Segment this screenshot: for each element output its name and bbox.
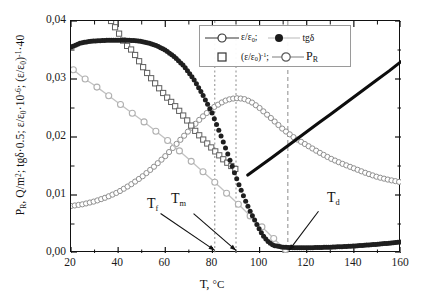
y-tick-label: 0,04	[30, 13, 66, 25]
legend-entry-eps-inverse: (ε/ε0)-1;	[204, 50, 269, 64]
x-tick-label: 100	[244, 256, 274, 268]
legend-label-tg-delta: tgδ	[301, 33, 314, 43]
x-tick-label: 140	[338, 256, 368, 268]
x-tick-label: 120	[291, 256, 321, 268]
x-tick-label: 20	[55, 256, 85, 268]
y-tick-label: 0,03	[30, 71, 66, 83]
legend-symbol-open-square	[204, 50, 240, 64]
legend-entry-pr: PR	[271, 49, 318, 64]
x-axis-title: T, °C	[0, 277, 424, 292]
legend-symbol-open-circle-gray-line	[271, 50, 305, 64]
legend-symbol-filled-circle	[267, 31, 301, 45]
annotation-t-f: Tf	[147, 196, 158, 213]
annotation-t-m: Tm	[171, 191, 186, 208]
legend-entry-tg-delta: tgδ	[267, 31, 314, 45]
x-tick-label: 40	[102, 256, 132, 268]
x-tick-label: 80	[196, 256, 226, 268]
y-axis-title-text: PR, Q/m2; tgδ·0.5; ε/ε0·10-6; (ε/ε0)-1·4…	[14, 35, 26, 216]
y-tick-label: 0,02	[30, 129, 66, 141]
legend-symbol-open-circle-line	[204, 31, 240, 45]
legend: ε/ε0; tgδ (ε/ε0)-1;	[199, 25, 351, 67]
legend-label-eps-over-eps0: ε/ε0;	[240, 32, 257, 43]
legend-row-1: ε/ε0; tgδ	[204, 28, 346, 47]
legend-label-eps-inverse: (ε/ε0)-1;	[240, 51, 269, 62]
x-tick-label: 60	[149, 256, 179, 268]
chart-root: PR, Q/m2; tgδ·0.5; ε/ε0·10-6; (ε/ε0)-1·4…	[0, 0, 424, 304]
legend-label-pr: PR	[305, 49, 318, 64]
annotation-t-d: Td	[327, 190, 340, 207]
legend-row-2: (ε/ε0)-1; PR	[204, 47, 346, 66]
y-axis-title: PR, Q/m2; tgδ·0.5; ε/ε0·10-6; (ε/ε0)-1·4…	[14, 0, 28, 250]
legend-entry-eps-over-eps0: ε/ε0;	[204, 31, 257, 45]
x-tick-label: 160	[385, 256, 415, 268]
y-tick-label: 0,01	[30, 187, 66, 199]
